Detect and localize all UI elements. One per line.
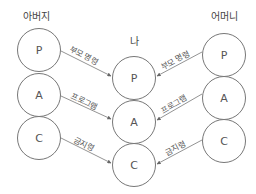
self-parent-node: P [112,56,156,100]
father-label: 아버지 [23,12,50,22]
father-adult-node: A [17,73,61,117]
mother-adult-node: A [202,76,246,120]
transactional-analysis-script-diagram: 아버지 나 어머니 P A C P A C P A C 부모 명령 프로그램 금… [0,0,256,194]
self-adult-node: A [112,100,156,144]
self-label: 나 [130,37,139,47]
father-parent-node: P [17,28,61,72]
mother-child-node: C [202,119,246,163]
mother-label: 어머니 [211,12,238,22]
father-child-node: C [17,116,61,160]
self-child-node: C [112,143,156,187]
mother-parent-node: P [202,33,246,77]
